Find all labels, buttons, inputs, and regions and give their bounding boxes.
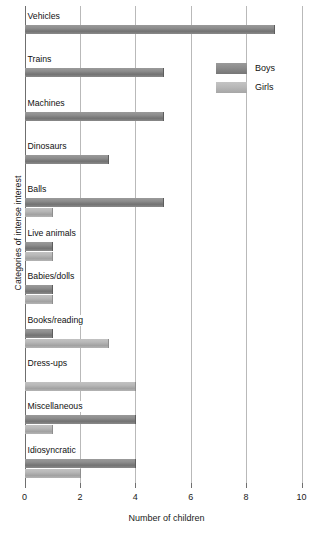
category-label: Miscellaneous (27, 401, 85, 412)
bar-group: Dress-ups (25, 353, 302, 396)
bar-boys (25, 459, 137, 468)
x-axis-title-text: Number of children (104, 513, 204, 523)
legend-swatch-girls (216, 82, 247, 93)
bar-chart: Categories of intense interest VehiclesT… (0, 0, 309, 535)
bar-group: Live animals (25, 223, 302, 266)
bar-group: Vehicles (25, 6, 302, 49)
x-tick-label-10: 10 (296, 492, 306, 502)
tick-mark-8 (246, 483, 247, 488)
category-label: Dress-ups (27, 358, 70, 369)
bar-boys (25, 198, 165, 207)
bar-girls (25, 208, 54, 217)
x-tick-label-8: 8 (244, 492, 249, 502)
x-tick-label-2: 2 (77, 492, 82, 502)
category-label: Vehicles (27, 11, 62, 22)
bar-boys (25, 68, 165, 77)
bar-boys (25, 155, 109, 164)
tick-mark-0 (25, 483, 26, 488)
legend-swatch-boys (216, 63, 247, 74)
bar-girls (25, 295, 54, 304)
x-tick-label-4: 4 (133, 492, 138, 502)
bar-group: Idiosyncratic (25, 440, 302, 483)
category-label: Trains (27, 54, 54, 65)
bar-girls (25, 382, 137, 391)
legend: Boys Girls (216, 62, 275, 100)
bar-girls (25, 252, 54, 261)
bar-boys (25, 285, 54, 294)
category-label: Balls (27, 184, 49, 195)
y-axis-title: Categories of intense interest (13, 143, 23, 323)
tick-mark-6 (191, 483, 192, 488)
bar-girls (25, 339, 109, 348)
bar-boys (25, 25, 275, 34)
category-label: Machines (27, 98, 67, 109)
gridline-10 (302, 6, 303, 483)
bar-girls (25, 469, 81, 478)
bar-boys (25, 242, 54, 251)
category-label: Live animals (27, 228, 78, 239)
category-label: Idiosyncratic (27, 445, 78, 456)
tick-mark-2 (80, 483, 81, 488)
tick-mark-10 (302, 483, 303, 488)
bar-boys (25, 415, 137, 424)
tick-mark-4 (135, 483, 136, 488)
legend-item-girls: Girls (216, 81, 275, 93)
bar-girls (25, 425, 54, 434)
bar-boys (25, 329, 54, 338)
legend-item-boys: Boys (216, 62, 275, 74)
category-label: Dinosaurs (27, 141, 69, 152)
bar-group: Books/reading (25, 310, 302, 353)
legend-label-boys: Boys (255, 63, 275, 73)
bar-group: Dinosaurs (25, 136, 302, 179)
bar-group: Balls (25, 179, 302, 222)
x-axis-title: Number of children (0, 513, 309, 523)
legend-label-girls: Girls (255, 82, 274, 92)
x-tick-label-0: 0 (22, 492, 27, 502)
bar-group: Miscellaneous (25, 396, 302, 439)
bar-group: Babies/dolls (25, 266, 302, 309)
x-tick-label-6: 6 (188, 492, 193, 502)
category-label: Babies/dolls (27, 271, 77, 282)
bar-boys (25, 112, 165, 121)
category-label: Books/reading (27, 315, 86, 326)
